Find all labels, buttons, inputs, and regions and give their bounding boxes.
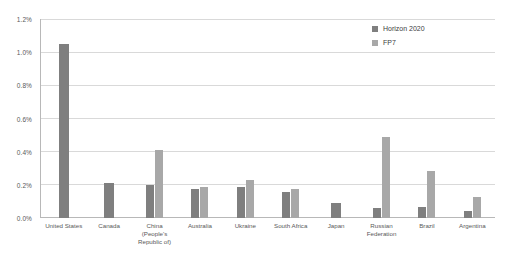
bar-group (132, 19, 177, 218)
bar-fp7 (155, 150, 163, 218)
y-tick-label: 0.0% (17, 215, 32, 222)
bar-horizon-2020 (331, 203, 341, 218)
bar-fp7 (473, 197, 481, 218)
x-tick-label: Russian Federation (359, 222, 404, 246)
x-tick-label: Ukraine (223, 222, 268, 246)
bar-horizon-2020 (418, 207, 426, 218)
bar-group (268, 19, 313, 218)
x-tick-label: Argentina (450, 222, 495, 246)
legend-label: FP7 (383, 39, 396, 46)
y-tick-label: 1.0% (17, 49, 32, 56)
bar-fp7 (427, 171, 435, 218)
y-tick-label: 1.2% (17, 16, 32, 23)
bar-chart: 1.2% 1.0% 0.8% 0.6% 0.4% 0.2% 0.0% Unite… (0, 0, 506, 264)
bar-fp7 (382, 137, 390, 218)
bar-horizon-2020 (237, 187, 245, 219)
bar-group (41, 19, 86, 218)
x-axis-labels: United StatesCanadaChina (People's Repub… (41, 222, 495, 246)
bar-horizon-2020 (59, 44, 69, 218)
x-tick-label: Canada (86, 222, 131, 246)
x-tick-label: Australia (177, 222, 222, 246)
bar-horizon-2020 (146, 185, 154, 218)
bar-fp7 (200, 187, 208, 218)
bar-group (313, 19, 358, 218)
bar-horizon-2020 (191, 189, 199, 218)
x-tick-label: United States (41, 222, 86, 246)
x-tick-label: South Africa (268, 222, 313, 246)
y-tick-label: 0.8% (17, 82, 32, 89)
bar-fp7 (246, 180, 254, 218)
legend-item-fp7: FP7 (372, 38, 425, 47)
bar-group (450, 19, 495, 218)
legend-label: Horizon 2020 (383, 25, 425, 32)
legend-swatch-icon (372, 40, 378, 46)
y-tick-label: 0.6% (17, 115, 32, 122)
bar-group (86, 19, 131, 218)
bar-horizon-2020 (464, 211, 472, 218)
y-axis-labels: 1.2% 1.0% 0.8% 0.6% 0.4% 0.2% 0.0% (0, 19, 36, 218)
bar-horizon-2020 (282, 192, 290, 218)
x-tick-label: Brazil (404, 222, 449, 246)
x-tick-label: China (People's Republic of) (132, 222, 177, 246)
x-tick-label: Japan (313, 222, 358, 246)
bar-horizon-2020 (104, 183, 114, 218)
y-tick-label: 0.2% (17, 181, 32, 188)
bar-group (223, 19, 268, 218)
bar-fp7 (291, 189, 299, 218)
legend-item-horizon-2020: Horizon 2020 (372, 24, 425, 33)
chart-legend: Horizon 2020 FP7 (372, 24, 425, 52)
bar-group (177, 19, 222, 218)
bar-horizon-2020 (373, 208, 381, 218)
bar-groups (41, 19, 495, 218)
legend-swatch-icon (372, 26, 378, 32)
y-tick-label: 0.4% (17, 148, 32, 155)
